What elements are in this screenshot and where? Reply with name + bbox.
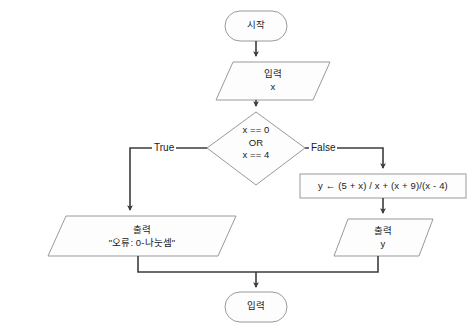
edge-label-false: False xyxy=(309,142,337,153)
process-rectangle-shape xyxy=(300,174,466,198)
connector-decision-true xyxy=(130,148,207,210)
output-error-parallelogram-shape xyxy=(48,216,236,256)
start-terminator-shape xyxy=(225,11,287,41)
edge-label-true: True xyxy=(152,142,176,153)
connector-output-error-to-merge xyxy=(138,256,256,272)
output-result-parallelogram-shape xyxy=(334,219,433,256)
connector-output-result-to-merge xyxy=(256,256,378,272)
decision-diamond-shape xyxy=(207,112,305,185)
flowchart-canvas: 시작 입력 x x == 0 OR x == 4 y ← (5 + x) / x… xyxy=(0,0,474,332)
input-parallelogram-shape xyxy=(216,62,330,100)
flowchart-graphics xyxy=(0,0,474,332)
end-terminator-shape xyxy=(225,292,287,322)
